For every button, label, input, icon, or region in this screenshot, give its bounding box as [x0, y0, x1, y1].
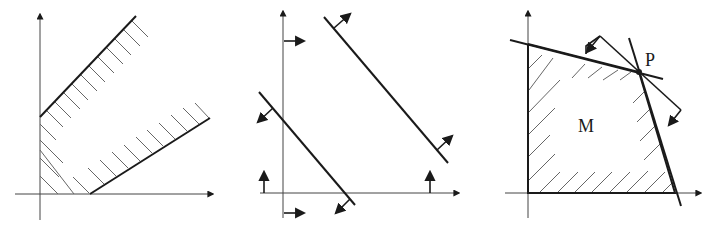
label-p: P: [645, 50, 655, 70]
arrow-icon: [437, 136, 452, 150]
panel-3: P M: [505, 11, 701, 218]
boundary-line-upper: [40, 16, 136, 117]
arrow-icon: [336, 199, 350, 213]
arrow-icon: [669, 110, 681, 125]
panel-2: [258, 11, 459, 218]
hatching-lower: [73, 103, 209, 193]
boundary-line-right: [324, 17, 448, 163]
boundary-line-left: [259, 92, 355, 205]
arrow-icon: [258, 108, 273, 122]
vertex-p-point: [636, 69, 642, 75]
hatching-y-axis: [40, 121, 74, 194]
hatching-upper: [47, 21, 148, 127]
label-m: M: [578, 116, 594, 136]
panel-1: [15, 14, 213, 220]
figure: P M: [0, 0, 714, 236]
arrow-icon: [334, 14, 350, 28]
boundary-line-lower: [90, 118, 210, 194]
